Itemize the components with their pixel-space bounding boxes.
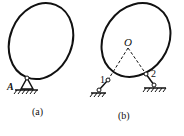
support-label-a: A (6, 81, 14, 92)
figure-b: O 1 2 (b) (87, 0, 184, 122)
caption-a: (a) (32, 106, 43, 118)
figure-a: A (a) (0, 0, 84, 118)
center-label-o: O (124, 36, 132, 48)
ring-a (0, 0, 84, 89)
caption-b: (b) (118, 110, 130, 122)
dashed-line-o-2 (128, 48, 146, 74)
point-label-2: 2 (151, 68, 156, 79)
point-label-1: 1 (100, 74, 105, 85)
diagram-canvas: A (a) (0, 0, 184, 136)
